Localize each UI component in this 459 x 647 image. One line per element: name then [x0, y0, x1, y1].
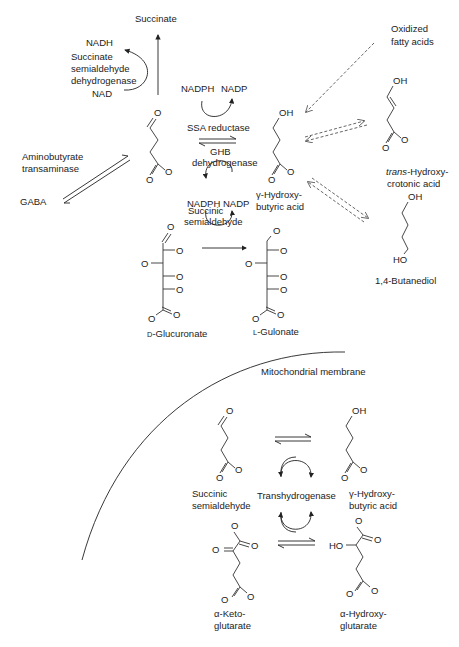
oxidized-fatty-acids-label-2: fatty acids [391, 36, 434, 47]
atom-o: O [176, 271, 183, 282]
ssadh-label-3: dehydrogenase [71, 75, 137, 86]
ghb-structure: OH O O [268, 107, 294, 185]
d-glucuronate-structure: O O O O O O O [141, 221, 183, 324]
glucuronate-name: D-Glucuronate [147, 328, 207, 339]
l-gulonate-structure: O O O O O O O [245, 225, 287, 324]
mito-ssa-ghb-equilibrium-arrows [275, 434, 311, 444]
atom-o: O [401, 134, 408, 145]
ghb-name-2: butyric acid [256, 201, 304, 212]
ssadh-label-2: semialdehyde [71, 63, 130, 74]
transhydrogenase-cycle-lower-right [281, 512, 311, 529]
atom-oh: OH [393, 75, 407, 86]
nadp-label-second: NADP [223, 198, 249, 209]
atom-o: O [277, 309, 284, 320]
atom-o: O [280, 271, 287, 282]
thca-rest: -Hydroxy- [407, 166, 448, 177]
atom-o: O [221, 594, 228, 605]
akg-name-2: glutarate [214, 620, 251, 631]
atom-o: O [374, 534, 381, 545]
atom-o: O [231, 520, 238, 531]
gulonate-name: L-Gulonate [253, 326, 299, 337]
ssa-name-2: semialdehyde [184, 216, 243, 227]
nadph-label-1: NADPH [181, 83, 214, 94]
nadh-label: NADH [86, 37, 113, 48]
pathway-diagram: Succinate NADH Succinate semialdehyde de… [0, 0, 459, 647]
atom-o: O [216, 472, 223, 483]
atom-o: O [154, 107, 161, 118]
succinate-label: Succinate [135, 13, 177, 24]
atom-o: O [280, 245, 287, 256]
alpha-ketoglutarate-structure: O O O O O [212, 520, 258, 605]
mito-ssa-name-2: semialdehyde [192, 500, 251, 511]
nad-label: NAD [92, 88, 112, 99]
ghb-thca-dashed-equilibrium [305, 121, 367, 141]
fatty-acids-to-ghb-arrow [306, 43, 374, 112]
atom-o: O [235, 464, 242, 475]
atom-o: O [226, 405, 233, 416]
butanediol-structure: OH HO [393, 191, 422, 265]
atom-o: O [371, 585, 378, 596]
atom-o: O [341, 472, 348, 483]
atom-o: O [165, 166, 172, 177]
atom-o: O [252, 313, 259, 324]
mito-ghb-name-1: γ-Hydroxy- [349, 488, 395, 499]
atom-oh: OH [279, 107, 293, 118]
atom-o: O [146, 174, 153, 185]
atom-o: O [355, 515, 362, 526]
nadph-nadp-cycle-arrow-1 [202, 99, 232, 117]
thca-name-1: trans-Hydroxy- [386, 166, 448, 177]
atom-ho: HO [329, 540, 343, 551]
succinic-semialdehyde-structure: O O O [146, 107, 172, 185]
ghb-butanediol-dashed-equilibrium [308, 178, 368, 222]
ahg-name-1: α-Hydroxy- [340, 608, 387, 619]
thca-name-2: crotonic acid [387, 178, 440, 189]
mitochondrial-membrane-label: Mitochondrial membrane [261, 366, 366, 377]
mito-ghb-structure: OH O O [341, 405, 367, 483]
mito-ghb-name-2: butyric acid [349, 500, 397, 511]
atom-o: O [148, 313, 155, 324]
atom-o: O [273, 225, 280, 236]
aminobutyrate-label-1: Aminobutyrate [22, 151, 83, 162]
ssa-ghb-equilibrium-arrows [199, 136, 236, 146]
alpha-hydroxyglutarate-structure: O O HO O O [329, 515, 381, 599]
ghb-dh-label-2: dehydrogenase [192, 157, 258, 168]
transhydrogenase-cycle-upper-right [281, 461, 311, 478]
mito-succinic-semialdehyde-structure: O O O [216, 405, 242, 483]
nadp-label-1: NADP [221, 83, 247, 94]
atom-oh: OH [408, 191, 422, 202]
mito-ssa-name-1: Succinic [192, 488, 228, 499]
atom-o: O [141, 258, 148, 269]
butanediol-name: 1,4-Butanediol [375, 275, 436, 286]
atom-o: O [280, 284, 287, 295]
oxidized-fatty-acids-label-1: Oxidized [391, 23, 428, 34]
atom-o: O [247, 591, 254, 602]
akg-name-1: α-Keto- [214, 608, 245, 619]
ssa-reductase-label: SSA reductase [187, 122, 250, 133]
ghb-dh-label-1: GHB [210, 146, 231, 157]
atom-o: O [212, 544, 219, 555]
atom-o: O [173, 309, 180, 320]
akg-ahg-equilibrium-arrows [278, 538, 315, 548]
atom-o: O [251, 540, 258, 551]
gaba-label: GABA [20, 196, 47, 207]
atom-oh: OH [352, 405, 366, 416]
atom-o: O [346, 588, 353, 599]
transhydrogenase-label: Transhydrogenase [257, 490, 336, 501]
atom-o: O [176, 284, 183, 295]
ahg-name-2: glutarate [340, 620, 377, 631]
atom-o: O [287, 166, 294, 177]
atom-o: O [167, 221, 174, 232]
atom-o: O [176, 245, 183, 256]
atom-ho: HO [393, 254, 407, 265]
nadph-label-second: NADPH [187, 198, 220, 209]
trans-hydroxycrotonic-acid-structure: OH O O [382, 75, 408, 153]
atom-o: O [268, 174, 275, 185]
mitochondrial-membrane-curve [82, 352, 345, 560]
ssadh-label-1: Succinate [71, 51, 113, 62]
atom-o: O [245, 258, 252, 269]
atom-o: O [360, 464, 367, 475]
atom-o: O [382, 142, 389, 153]
ghb-name-1: γ-Hydroxy- [256, 189, 302, 200]
aminobutyrate-label-2: transaminase [22, 163, 79, 174]
thca-italic: trans [386, 166, 407, 177]
